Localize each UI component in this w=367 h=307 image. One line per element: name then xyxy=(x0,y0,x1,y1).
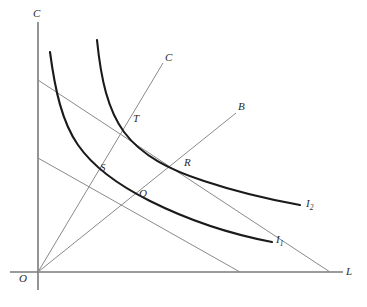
origin-label-o: O xyxy=(19,273,27,284)
axis-label-l: L xyxy=(346,266,352,277)
axis-label-c: C xyxy=(33,8,40,19)
point-label-q: Q xyxy=(139,188,147,199)
indifference-curve-i1 xyxy=(50,52,272,242)
expansion-ray-ob xyxy=(38,113,236,272)
point-label-t: T xyxy=(133,113,139,124)
curve-label-i2-subscript: 2 xyxy=(310,203,314,212)
budget-line-lower xyxy=(38,158,240,272)
point-label-r: R xyxy=(184,157,191,168)
ray-label-b: B xyxy=(238,101,245,112)
ray-label-c: C xyxy=(165,52,172,63)
budget-line-upper xyxy=(38,80,330,272)
curve-label-i2: I2 xyxy=(306,198,313,212)
curve-label-i1: I1 xyxy=(276,234,283,248)
diagram-svg xyxy=(0,0,367,307)
curve-label-i1-subscript: 1 xyxy=(280,239,284,248)
figure-canvas: C L O C B I1 I2 T S R Q xyxy=(0,0,367,307)
point-label-s: S xyxy=(100,162,106,173)
